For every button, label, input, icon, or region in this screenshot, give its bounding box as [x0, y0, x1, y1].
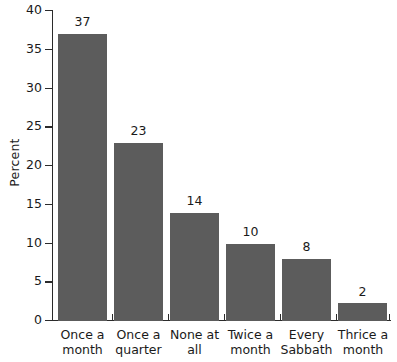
x-category-line1: Every — [276, 327, 337, 342]
x-category-label-none-at-all: None at all — [167, 327, 222, 357]
x-category-line1: None at — [167, 327, 222, 342]
bar-value-label: 8 — [282, 241, 331, 254]
bar-once-a-quarter[interactable] — [114, 143, 163, 321]
x-category-line2: quarter — [109, 342, 168, 357]
bar-every-sabbath[interactable] — [282, 259, 331, 321]
bar-chart: Percent 40 35 30 25 20 15 10 5 0 37 23 1… — [0, 0, 397, 362]
x-category-label-every-sabbath: Every Sabbath — [276, 327, 337, 357]
x-category-line2: month — [223, 342, 278, 357]
bar-once-a-month[interactable] — [58, 34, 107, 321]
x-category-label-once-a-month: Once a month — [55, 327, 110, 357]
x-category-label-once-a-quarter: Once a quarter — [109, 327, 168, 357]
x-category-label-thrice-a-month: Thrice a month — [334, 327, 392, 357]
bar-twice-a-month[interactable] — [226, 244, 275, 322]
x-category-line1: Twice a — [223, 327, 278, 342]
x-category-line2: Sabbath — [276, 342, 337, 357]
bar-value-label: 10 — [226, 226, 275, 239]
x-category-line2: all — [167, 342, 222, 357]
x-category-line2: month — [334, 342, 392, 357]
x-category-line1: Once a — [109, 327, 168, 342]
x-category-label-twice-a-month: Twice a month — [223, 327, 278, 357]
bars-layer — [0, 0, 397, 321]
bar-value-label: 23 — [114, 125, 163, 138]
x-category-line2: month — [55, 342, 110, 357]
bar-value-label: 37 — [58, 16, 107, 29]
bar-none-at-all[interactable] — [170, 213, 219, 322]
x-category-line1: Thrice a — [334, 327, 392, 342]
bar-thrice-a-month[interactable] — [338, 303, 387, 321]
x-category-line1: Once a — [55, 327, 110, 342]
bar-value-label: 14 — [170, 195, 219, 208]
bar-value-label: 2 — [338, 286, 387, 299]
